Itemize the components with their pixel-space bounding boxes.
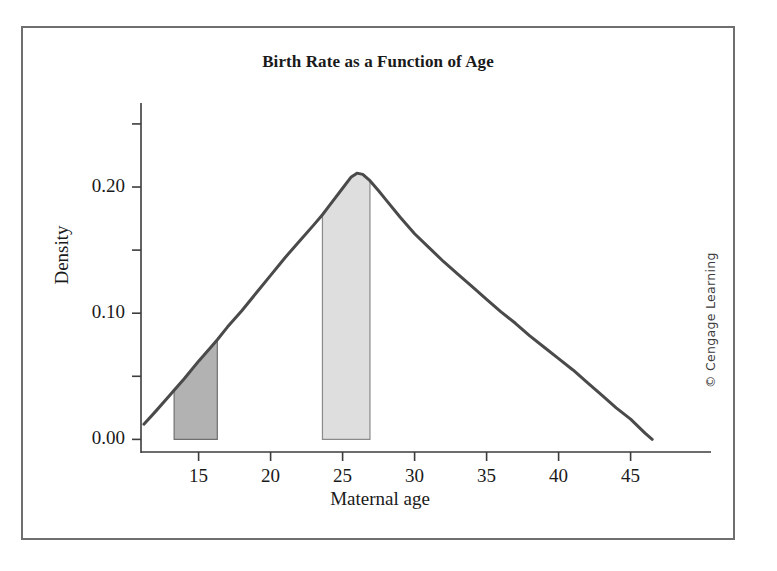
axis-layer bbox=[132, 103, 711, 461]
shaded-regions-layer bbox=[174, 173, 370, 439]
x-axis-tick-label: 45 bbox=[606, 465, 656, 487]
y-axis-tick-label: 0.00 bbox=[55, 427, 125, 449]
x-axis-tick-label: 25 bbox=[318, 465, 368, 487]
y-axis-tick-label: 0.10 bbox=[55, 301, 125, 323]
chart-plot-area bbox=[21, 26, 735, 540]
x-axis-tick-label: 15 bbox=[174, 465, 224, 487]
copyright-notice: © Cengage Learning bbox=[703, 218, 718, 388]
x-axis-tick-label: 20 bbox=[246, 465, 296, 487]
x-axis-tick-label: 30 bbox=[390, 465, 440, 487]
x-axis-tick-label: 40 bbox=[534, 465, 584, 487]
teen-age-region bbox=[174, 340, 217, 440]
x-axis-title: Maternal age bbox=[260, 488, 500, 510]
peak-age-region bbox=[322, 173, 370, 439]
figure-root: Birth Rate as a Function of Age Density … bbox=[0, 0, 777, 571]
y-axis-tick-label: 0.20 bbox=[55, 175, 125, 197]
density-curve bbox=[144, 173, 652, 439]
x-axis-tick-label: 35 bbox=[462, 465, 512, 487]
density-curve-layer bbox=[144, 173, 652, 439]
